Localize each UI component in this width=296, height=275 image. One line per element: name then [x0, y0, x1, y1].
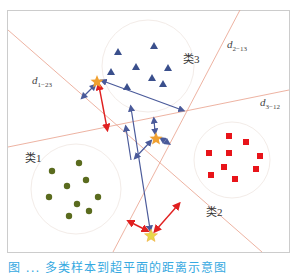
- star-sample-c: [145, 229, 158, 242]
- cluster-1-label: 类1: [25, 149, 42, 165]
- star-sample-b: [150, 132, 163, 145]
- cluster-2-points: [206, 133, 263, 182]
- arrow-a-to-d3: [99, 86, 107, 128]
- arrow-c-to-d3: [131, 108, 150, 229]
- boundary-label-sub: 3−12: [266, 103, 280, 111]
- cluster-3-points: [107, 42, 172, 90]
- boundary-d3-12: [8, 90, 289, 147]
- cluster-3-label: 类3: [183, 50, 200, 66]
- cluster-1-points: [46, 160, 101, 219]
- cluster-1-region: [31, 144, 121, 234]
- arrow-b-to-d2: [162, 139, 168, 143]
- arrow-b-to-d3: [154, 120, 155, 132]
- boundary-d1-23: [8, 30, 262, 252]
- arrow-a-to-d2: [103, 81, 182, 110]
- cluster-2-label: 类2: [206, 203, 223, 219]
- figure-caption: 图 ... 多类样本到超平面的距离示意图: [8, 258, 227, 275]
- boundary-label-sub: 1−23: [38, 81, 52, 89]
- arrow-b-vertical: [126, 128, 131, 160]
- boundary-label-d2-13: d2−13: [227, 38, 247, 53]
- star-sample-a: [91, 75, 104, 88]
- arrow-c-to-d1: [156, 205, 178, 230]
- arrow-c-to-d2: [130, 222, 146, 230]
- arrow-a-to-d1: [83, 86, 94, 97]
- boundary-label-d1-23: d1−23: [32, 74, 52, 89]
- boundary-label-d3-12: d3−12: [260, 96, 280, 111]
- boundary-label-sub: 2−13: [233, 45, 247, 53]
- cluster-3-region: [102, 20, 194, 112]
